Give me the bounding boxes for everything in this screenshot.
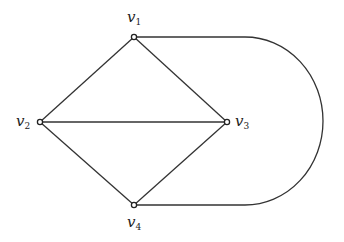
vertex-v3 xyxy=(224,119,229,124)
edge-v3-v4 xyxy=(134,122,227,205)
vertex-v2 xyxy=(37,119,42,124)
edge-v1-v2 xyxy=(40,37,134,122)
label-v3: v3 xyxy=(235,114,249,131)
edge-v2-v4 xyxy=(40,122,134,205)
label-v1: v1 xyxy=(127,10,141,27)
vertex-v1 xyxy=(131,34,136,39)
graph-diagram xyxy=(0,0,344,242)
vertex-v4 xyxy=(131,202,136,207)
label-v4: v4 xyxy=(127,215,141,232)
edge-v1-v3 xyxy=(134,37,227,122)
label-v2: v2 xyxy=(16,114,30,131)
